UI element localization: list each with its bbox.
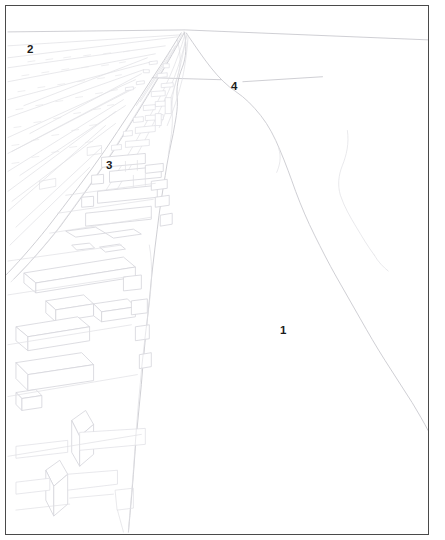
figure-root: .l { fill:none; stroke:#d7d7dc; stroke-w… <box>0 0 445 540</box>
callout-label-4: 4 <box>231 81 237 93</box>
figure-drawing: .l { fill:none; stroke:#d7d7dc; stroke-w… <box>6 6 428 534</box>
figure-frame: .l { fill:none; stroke:#d7d7dc; stroke-w… <box>5 5 429 535</box>
callout-label-3: 3 <box>106 160 112 172</box>
callout-label-2: 2 <box>27 44 33 56</box>
horizon-lines <box>8 30 428 58</box>
distant-buildings <box>112 61 174 151</box>
foreground-buildings <box>16 227 152 532</box>
callout-label-1: 1 <box>280 325 286 337</box>
shoreline-and-water <box>128 32 428 532</box>
